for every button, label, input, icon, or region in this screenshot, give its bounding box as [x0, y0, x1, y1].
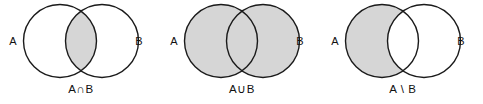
set-label-a: A [331, 35, 339, 47]
venn-panel-difference: A B A \ B [322, 0, 483, 104]
set-label-b: B [135, 35, 142, 47]
set-label-b: B [296, 35, 303, 47]
venn-panel-union: A B A∪B [161, 0, 322, 104]
set-label-b: B [457, 35, 464, 47]
panel-caption-difference: A \ B [389, 83, 416, 95]
panel-caption-union: A∪B [229, 83, 255, 95]
set-label-a: A [9, 35, 17, 47]
panel-caption-intersection: A∩B [68, 83, 93, 95]
set-label-a: A [170, 35, 178, 47]
venn-diagram-figure: A B A∩B A B A∪B [0, 0, 483, 104]
venn-panel-intersection: A B A∩B [0, 0, 161, 104]
shaded-region-union [185, 5, 300, 78]
